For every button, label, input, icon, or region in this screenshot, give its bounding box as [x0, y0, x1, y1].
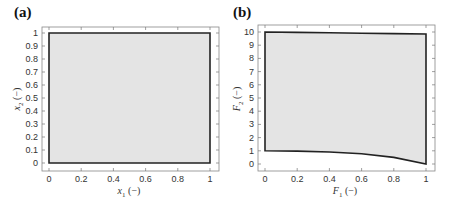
panel-b-label: (b) [233, 4, 251, 21]
x-tick-label: 0.8 [172, 174, 185, 184]
x-tick-label: 0.6 [139, 174, 152, 184]
y-tick-label: 0.7 [25, 67, 38, 77]
x-tick-label: 0.6 [355, 174, 368, 184]
x-tick-label: 0.8 [388, 174, 401, 184]
x-tick-label: 0 [262, 174, 267, 184]
x-tick-label: 0 [46, 174, 51, 184]
y-tick-label: 0 [249, 159, 254, 169]
y-tick-label: 0 [33, 158, 38, 168]
y-tick-label: 0.8 [25, 54, 38, 64]
x-tick-label: 0.4 [323, 174, 336, 184]
y-tick-label: 7 [249, 67, 254, 77]
panel-a-x-axis-label: x1 (−) [117, 185, 141, 199]
panel-b-x-axis-label: F1 (−) [332, 185, 357, 199]
region-boundary [265, 32, 426, 164]
x-tick-label: 0.2 [75, 174, 88, 184]
panel-b: (b) 00.20.40.60.81012345678910 F1 (−) F2… [231, 4, 435, 199]
region-boundary [49, 33, 210, 163]
y-tick-label: 0.4 [25, 106, 38, 116]
y-tick-label: 5 [249, 93, 254, 103]
y-tick-label: 1 [33, 28, 38, 38]
panel-a-y-axis-label: x2 (−) [11, 88, 25, 112]
x-tick-label: 0.2 [291, 174, 304, 184]
x-tick-label: 1 [423, 174, 428, 184]
panel-b-y-axis-label: F2 (−) [231, 87, 245, 112]
y-tick-label: 4 [249, 106, 254, 116]
y-tick-label: 1 [249, 146, 254, 156]
y-tick-label: 0.1 [25, 145, 38, 155]
panel-a-feasible-region [49, 33, 210, 163]
y-tick-label: 9 [249, 40, 254, 50]
y-tick-label: 6 [249, 80, 254, 90]
figure: (a) 00.20.40.60.8100.10.20.30.40.50.60.7… [0, 0, 453, 203]
x-tick-label: 0.4 [107, 174, 120, 184]
panel-a: (a) 00.20.40.60.8100.10.20.30.40.50.60.7… [11, 4, 219, 199]
panel-a-label: (a) [14, 4, 32, 21]
y-tick-label: 0.3 [25, 119, 38, 129]
y-tick-label: 0.2 [25, 132, 38, 142]
y-tick-label: 0.6 [25, 80, 38, 90]
panel-b-objective-region [265, 32, 426, 164]
y-tick-label: 0.5 [25, 93, 38, 103]
y-tick-label: 0.9 [25, 41, 38, 51]
y-tick-label: 2 [249, 133, 254, 143]
y-tick-label: 10 [244, 27, 254, 37]
y-tick-label: 8 [249, 53, 254, 63]
x-tick-label: 1 [207, 174, 212, 184]
y-tick-label: 3 [249, 119, 254, 129]
